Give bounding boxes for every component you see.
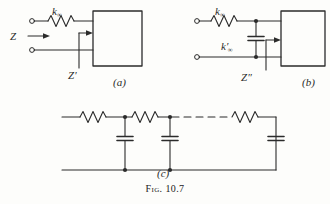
resistor-c-2: [132, 112, 158, 123]
label-k-prime-inf-b: k′∞: [221, 41, 233, 54]
impedance-Z-arrow-head-a: [43, 33, 50, 39]
terminal-dot-a-top: [30, 19, 35, 24]
panel-label-b: (b): [302, 77, 315, 88]
panel-a-circuit: [28, 11, 142, 68]
terminal-dot-b-bottom: [195, 55, 200, 60]
panel-label-a: (a): [113, 77, 126, 88]
terminal-dot-b-top: [195, 19, 200, 24]
resistor-c-1: [80, 112, 106, 123]
label-k-inf-b: k∞: [215, 6, 225, 19]
network-box-a: [93, 11, 142, 66]
figure-caption-number: 10.7: [165, 183, 184, 194]
label-impedance-Z-a: Z: [10, 31, 16, 42]
terminal-dot-a-bottom: [30, 48, 35, 53]
network-box-b: [281, 11, 325, 66]
impedance-Zprime-arrow-head-a: [86, 30, 93, 36]
panel-c-ladder-network: [62, 112, 284, 173]
junction-node-c-1-bottom: [123, 168, 127, 172]
figure-caption-prefix: Fig.: [145, 183, 162, 194]
label-impedance-Z-prime-a: Z′: [68, 70, 76, 81]
figure-10-7: k∞ Z Z′ (a) k∞ k′∞ Z″ (b) (c) Fig. 10.7: [0, 0, 330, 204]
label-k-inf-a: k∞: [52, 6, 62, 19]
panel-label-c: (c): [157, 168, 169, 179]
figure-caption: Fig. 10.7: [0, 184, 330, 194]
resistor-c-3: [232, 112, 258, 123]
panel-b-circuit: [195, 11, 325, 70]
label-impedance-Z-double-prime-b: Z″: [241, 72, 251, 83]
impedance-Zdprime-arrow-head-b: [274, 37, 281, 43]
